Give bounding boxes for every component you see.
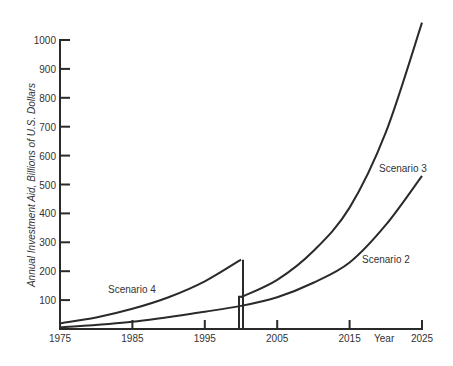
y-tick-label: 1000 xyxy=(34,35,57,46)
x-tick-label: 2015 xyxy=(338,333,361,344)
y-tick-label: 900 xyxy=(39,64,56,75)
x-axis-label: Year xyxy=(374,333,395,344)
x-tick-label: 2005 xyxy=(266,333,289,344)
y-tick-label: 100 xyxy=(39,295,56,306)
x-tick-label: 1985 xyxy=(121,333,144,344)
y-tick-label: 600 xyxy=(39,151,56,162)
y-tick-label: 500 xyxy=(39,180,56,191)
chart: 1002003004005006007008009001000 19751985… xyxy=(0,0,453,366)
scenario-4-label: Scenario 4 xyxy=(108,284,156,295)
y-tick-label: 700 xyxy=(39,122,56,133)
x-tick-label: 1975 xyxy=(49,333,72,344)
x-tick-label: 1995 xyxy=(194,333,217,344)
y-ticks: 1002003004005006007008009001000 xyxy=(34,35,70,306)
y-tick-label: 400 xyxy=(39,208,56,219)
y-tick-label: 200 xyxy=(39,266,56,277)
scenario-2-line xyxy=(60,176,422,328)
y-axis-label: Annual Investment Aid, Billions of U.S. … xyxy=(26,83,37,288)
scenario-3-label: Scenario 3 xyxy=(379,163,427,174)
scenario-2-label: Scenario 2 xyxy=(362,254,410,265)
x-tick-label: 2025 xyxy=(411,333,434,344)
y-tick-label: 300 xyxy=(39,237,56,248)
y-tick-label: 800 xyxy=(39,93,56,104)
